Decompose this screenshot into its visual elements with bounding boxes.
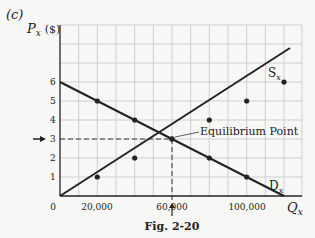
svg-text:5: 5	[50, 96, 56, 106]
svg-text:3: 3	[50, 134, 56, 144]
price-arrow-icon	[33, 136, 46, 142]
svg-text:4: 4	[50, 115, 56, 125]
svg-text:0: 0	[50, 202, 56, 212]
supply-label: Sx	[268, 66, 281, 82]
svg-text:100,000: 100,000	[228, 202, 265, 212]
svg-text:2: 2	[50, 153, 56, 163]
svg-text:1: 1	[50, 172, 56, 182]
x-tick-labels: 0 20,000 60,000 100,000	[50, 202, 266, 212]
demand-label: Dx	[269, 179, 284, 195]
equilibrium-label: Equilibrium Point	[200, 125, 299, 138]
equilibrium-leader	[175, 132, 199, 137]
supply-demand-chart: (c) Px($) 6 5 4 3 2 1 0 20,000 60,000 10…	[0, 0, 315, 238]
y-axis-label: Px($)	[26, 21, 60, 38]
svg-text:60,000: 60,000	[156, 202, 188, 212]
x-axis-label: Qx	[287, 200, 303, 217]
y-tick-labels: 6 5 4 3 2 1	[50, 77, 56, 182]
equilibrium-point	[169, 136, 175, 142]
supply-line	[60, 48, 290, 196]
panel-label: (c)	[6, 7, 23, 22]
grid	[60, 25, 302, 196]
figure-caption: Fig. 2-20	[145, 220, 200, 233]
svg-text:6: 6	[50, 77, 56, 87]
svg-text:20,000: 20,000	[81, 202, 113, 212]
